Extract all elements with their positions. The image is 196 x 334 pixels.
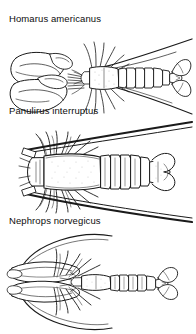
species-label-panulirus-interruptus: Panulirus interruptus — [9, 105, 98, 116]
species-label-nephrops-norvegicus: Nephrops norvegicus — [9, 215, 101, 226]
species-label-homarus-americanus: Homarus americanus — [9, 13, 101, 24]
lobster-species-figure: Homarus americanus Panulirus interruptus… — [0, 0, 196, 334]
nephrops-norvegicus-drawing — [0, 228, 196, 334]
panulirus-interruptus-drawing — [0, 118, 196, 228]
